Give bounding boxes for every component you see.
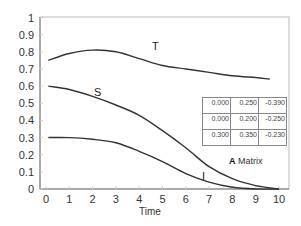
x-tick-label: 4 xyxy=(136,193,142,205)
y-tick-label: 0.5 xyxy=(19,97,34,109)
x-tick-label: 7 xyxy=(206,193,212,205)
y-tick-label: 0.8 xyxy=(19,46,34,58)
curve-label-s: S xyxy=(94,86,101,98)
matrix-cell: -0.230 xyxy=(259,130,287,146)
x-tick-label: 0 xyxy=(43,193,49,205)
curve-t xyxy=(48,50,269,79)
y-tick-labels: 00.10.20.30.40.50.60.70.80.91 xyxy=(19,12,43,196)
x-tick-label: 9 xyxy=(253,193,259,205)
y-tick-label: 0.2 xyxy=(19,149,34,161)
matrix-cell: -0.390 xyxy=(259,98,287,114)
matrix-cell: 0.200 xyxy=(231,114,259,130)
x-tick-label: 6 xyxy=(183,193,189,205)
x-tick-label: 2 xyxy=(90,193,96,205)
matrix-cell: 0.350 xyxy=(231,130,259,146)
x-tick-label: 1 xyxy=(66,193,72,205)
curve-label-i: I xyxy=(202,170,205,182)
matrix-cell: 0.300 xyxy=(203,130,231,146)
matrix-row: 0.000 0.250 -0.390 xyxy=(203,98,287,114)
y-tick-label: 0.6 xyxy=(19,80,34,92)
x-axis-label: Time xyxy=(139,206,161,217)
x-tick-label: 3 xyxy=(113,193,119,205)
matrix-cell: 0.000 xyxy=(203,98,231,114)
matrix-title-rest: Matrix xyxy=(236,156,263,166)
matrix-row: 0.000 0.200 -0.250 xyxy=(203,114,287,130)
y-tick-label: 0.7 xyxy=(19,63,34,75)
curve-label-t: T xyxy=(152,40,159,52)
x-tick-label: 5 xyxy=(159,193,165,205)
y-tick-label: 0.9 xyxy=(19,29,34,41)
y-tick-label: 0.3 xyxy=(19,132,34,144)
x-tick-label: 10 xyxy=(273,193,285,205)
matrix-row: 0.300 0.350 -0.230 xyxy=(203,130,287,146)
matrix-cell: 0.250 xyxy=(231,98,259,114)
matrix-cell: -0.250 xyxy=(259,114,287,130)
y-tick-label: 0 xyxy=(28,183,34,195)
y-tick-label: 0.1 xyxy=(19,166,34,178)
y-tick-label: 1 xyxy=(28,12,34,24)
matrix-cell: 0.000 xyxy=(203,114,231,130)
a-matrix-table: 0.000 0.250 -0.390 0.000 0.200 -0.250 0.… xyxy=(202,97,287,146)
x-tick-label: 8 xyxy=(229,193,235,205)
matrix-title: A Matrix xyxy=(229,156,263,166)
y-tick-label: 0.4 xyxy=(19,114,34,126)
